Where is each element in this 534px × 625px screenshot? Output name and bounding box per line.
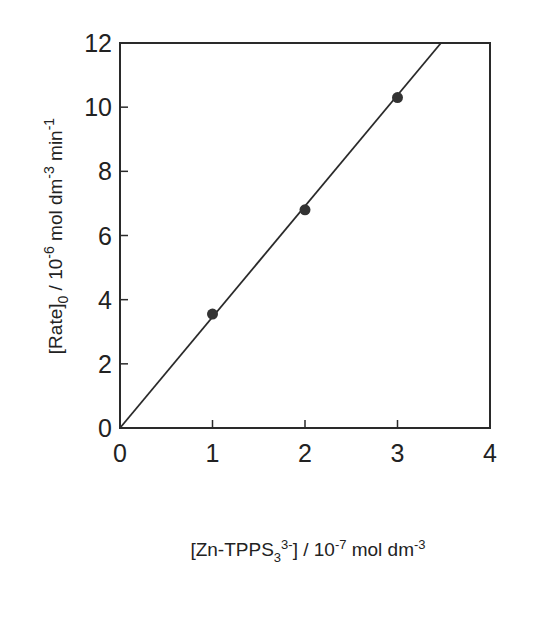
x-tick-label: 4 [483, 439, 497, 467]
y-tick-labels: 024681012 [84, 29, 112, 442]
fit-line [120, 43, 441, 428]
data-points [207, 92, 403, 320]
y-tick-label: 8 [98, 157, 112, 185]
axis-ticks [120, 107, 398, 428]
data-point [392, 92, 403, 103]
y-tick-label: 4 [98, 286, 112, 314]
y-tick-label: 10 [84, 93, 112, 121]
y-tick-label: 0 [98, 414, 112, 442]
y-tick-label: 6 [98, 222, 112, 250]
rate-vs-concentration-chart: 01234 024681012 [Zn-TPPS33-] / 10-7 mol … [0, 0, 534, 625]
data-point [207, 309, 218, 320]
x-tick-labels: 01234 [113, 439, 497, 467]
data-point [300, 204, 311, 215]
y-axis-label: [Rate]0 / 10-6 mol dm-3 min-1 [41, 118, 71, 355]
y-tick-label: 2 [98, 350, 112, 378]
x-tick-label: 2 [298, 439, 312, 467]
plot-frame [120, 43, 490, 428]
x-axis-label: [Zn-TPPS33-] / 10-7 mol dm-3 [190, 537, 425, 565]
x-tick-label: 3 [391, 439, 405, 467]
linear-fit-line [120, 43, 441, 428]
x-tick-label: 0 [113, 439, 127, 467]
x-tick-label: 1 [206, 439, 220, 467]
plot-border [120, 43, 490, 428]
y-tick-label: 12 [84, 29, 112, 57]
